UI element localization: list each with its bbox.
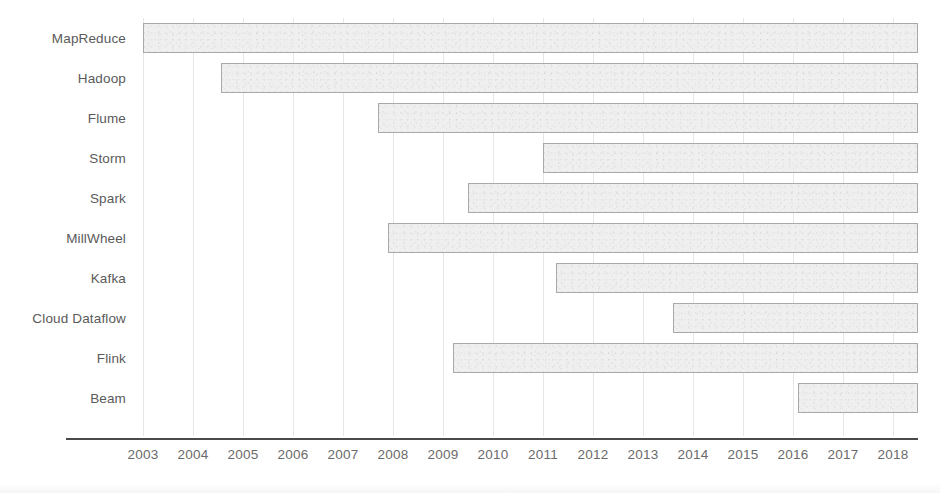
bar-mapreduce[interactable] (143, 23, 918, 53)
tick-label-2005: 2005 (228, 447, 259, 462)
bar-millwheel[interactable] (388, 223, 918, 253)
tick-label-2014: 2014 (678, 447, 709, 462)
category-label-storm: Storm (2, 151, 126, 166)
tick-label-2017: 2017 (828, 447, 859, 462)
x-axis-line (66, 438, 918, 440)
tick-label-2009: 2009 (428, 447, 459, 462)
tick-label-2016: 2016 (778, 447, 809, 462)
category-label-kafka: Kafka (2, 271, 126, 286)
gridline-2004 (193, 18, 194, 436)
gantt-timeline-chart: MapReduceHadoopFlumeStormSparkMillWheelK… (0, 0, 940, 493)
category-axis-labels: MapReduceHadoopFlumeStormSparkMillWheelK… (0, 0, 126, 440)
bar-spark[interactable] (468, 183, 918, 213)
tick-label-2012: 2012 (578, 447, 609, 462)
category-label-millwheel: MillWheel (2, 231, 126, 246)
gridline-2003 (143, 18, 144, 436)
tick-label-2010: 2010 (478, 447, 509, 462)
tick-label-2018: 2018 (878, 447, 909, 462)
category-label-hadoop: Hadoop (2, 71, 126, 86)
bar-cloud-dataflow[interactable] (673, 303, 918, 333)
tick-label-2011: 2011 (528, 447, 558, 462)
tick-label-2008: 2008 (378, 447, 409, 462)
category-label-flink: Flink (2, 351, 126, 366)
category-label-spark: Spark (2, 191, 126, 206)
tick-label-2004: 2004 (178, 447, 209, 462)
bar-flink[interactable] (453, 343, 918, 373)
category-label-beam: Beam (2, 391, 126, 406)
bar-flume[interactable] (378, 103, 918, 133)
tick-label-2003: 2003 (128, 447, 159, 462)
category-label-cloud-dataflow: Cloud Dataflow (2, 311, 126, 326)
bar-hadoop[interactable] (221, 63, 919, 93)
bar-kafka[interactable] (556, 263, 919, 293)
bar-beam[interactable] (798, 383, 918, 413)
category-label-mapreduce: MapReduce (2, 31, 126, 46)
tick-label-2007: 2007 (328, 447, 359, 462)
bar-storm[interactable] (543, 143, 918, 173)
tick-label-2013: 2013 (628, 447, 659, 462)
tick-label-2015: 2015 (728, 447, 759, 462)
category-label-flume: Flume (2, 111, 126, 126)
chart-page: MapReduceHadoopFlumeStormSparkMillWheelK… (0, 0, 940, 493)
tick-label-2006: 2006 (278, 447, 309, 462)
